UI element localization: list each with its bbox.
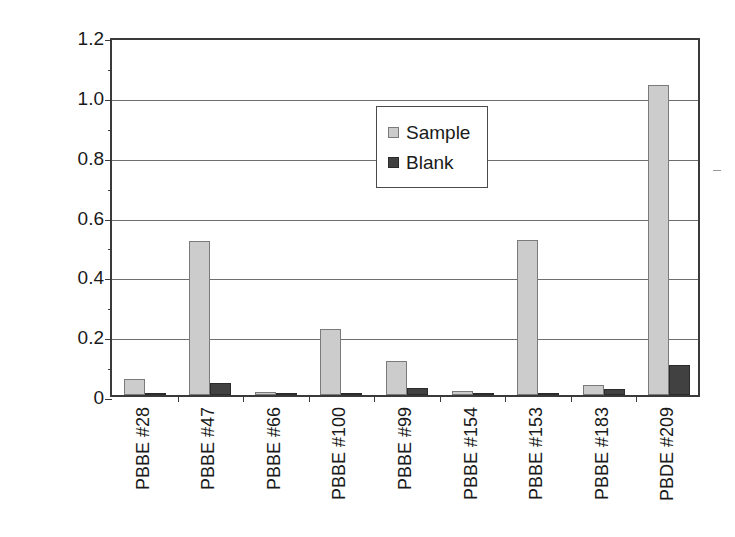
x-tick-label: PBBE #47 xyxy=(199,407,217,490)
y-tick-label: 0.6 xyxy=(40,208,104,227)
y-tick-mark-minor xyxy=(108,190,112,191)
legend-swatch-sample-icon xyxy=(388,127,399,138)
bar-blank xyxy=(210,383,231,395)
bar-blank xyxy=(145,393,166,395)
x-tick-label: PBDE #209 xyxy=(658,407,676,501)
bar-blank xyxy=(341,393,362,395)
x-tick-label-slot: PBBE #28 xyxy=(110,399,176,537)
bar-chart: ng/g, lipid based 00.20.40.60.81.01.2 Sa… xyxy=(0,0,735,537)
bar-sample xyxy=(648,85,669,395)
y-tick-mark-minor xyxy=(108,369,112,370)
plot-inner xyxy=(112,40,698,395)
y-tick-mark xyxy=(105,100,112,101)
x-axis-tick-labels: PBBE #28PBBE #47PBBE #66PBBE #100PBBE #9… xyxy=(110,399,700,537)
bar-sample xyxy=(583,385,604,395)
y-tick-mark xyxy=(105,40,112,41)
y-tick-label: 0 xyxy=(40,388,104,407)
x-tick-label-slot: PBBE #154 xyxy=(438,399,504,537)
x-tick-label: PBBE #153 xyxy=(527,407,545,500)
y-tick-mark-minor xyxy=(108,249,112,250)
legend-item-sample: Sample xyxy=(388,117,487,147)
bar-sample xyxy=(452,391,473,395)
plot-area xyxy=(110,38,700,397)
x-tick-label: PBBE #100 xyxy=(330,407,348,500)
gridline xyxy=(112,220,698,221)
y-tick-mark xyxy=(105,160,112,161)
y-axis-title: ng/g, lipid based xyxy=(6,0,32,64)
x-tick-label: PBBE #154 xyxy=(462,407,480,500)
bar-blank xyxy=(538,393,559,395)
legend-swatch-blank-icon xyxy=(388,157,399,168)
x-tick-label-slot: PBBE #153 xyxy=(503,399,569,537)
x-tick-label-slot: PBBE #47 xyxy=(176,399,242,537)
gridline xyxy=(112,100,698,101)
x-tick-label: PBBE #66 xyxy=(265,407,283,490)
bar-sample xyxy=(189,241,210,395)
x-tick-label-slot: PBBE #100 xyxy=(307,399,373,537)
bar-sample xyxy=(255,392,276,395)
y-tick-mark xyxy=(105,279,112,280)
y-tick-label: 1.2 xyxy=(40,29,104,48)
y-tick-mark-minor xyxy=(108,309,112,310)
bar-blank xyxy=(669,365,690,395)
y-tick-label: 0.8 xyxy=(40,148,104,167)
bar-blank xyxy=(276,393,297,395)
bar-sample xyxy=(517,240,538,395)
y-tick-mark xyxy=(105,339,112,340)
y-tick-mark-minor xyxy=(108,70,112,71)
chart-legend: Sample Blank xyxy=(376,106,488,188)
y-axis-tick-labels: 00.20.40.60.81.01.2 xyxy=(40,38,104,397)
legend-label-blank: Blank xyxy=(406,153,454,172)
x-tick-label-slot: PBBE #183 xyxy=(569,399,635,537)
x-tick-label: PBBE #183 xyxy=(593,407,611,500)
y-tick-mark-minor xyxy=(108,130,112,131)
y-tick-label: 0.4 xyxy=(40,268,104,287)
x-tick-label: PBBE #99 xyxy=(396,407,414,490)
x-tick-label-slot: PBBE #99 xyxy=(372,399,438,537)
bar-blank xyxy=(473,393,494,395)
y-tick-label: 1.0 xyxy=(40,88,104,107)
x-tick-label-slot: PBBE #66 xyxy=(241,399,307,537)
legend-label-sample: Sample xyxy=(406,123,470,142)
y-tick-mark xyxy=(105,220,112,221)
bar-blank xyxy=(407,388,428,395)
bar-sample xyxy=(124,379,145,395)
legend-item-blank: Blank xyxy=(388,147,487,177)
bar-sample xyxy=(386,361,407,395)
bar-blank xyxy=(604,389,625,395)
x-tick-label: PBBE #28 xyxy=(134,407,152,490)
x-tick-label-slot: PBDE #209 xyxy=(634,399,700,537)
bar-sample xyxy=(320,329,341,395)
y-tick-label: 0.2 xyxy=(40,328,104,347)
page-edge-mark xyxy=(713,170,721,171)
